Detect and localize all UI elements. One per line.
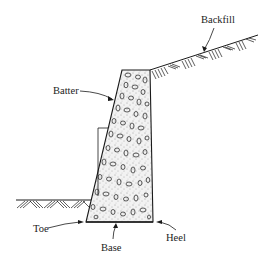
arrow-icon [202, 46, 207, 52]
front-ground [16, 200, 92, 208]
label-batter: Batter [53, 85, 79, 96]
arrow-icon [78, 220, 84, 224]
batter-leader [80, 91, 112, 99]
backfill-slope [150, 35, 258, 79]
arrow-icon [108, 96, 114, 101]
label-base: Base [101, 242, 122, 253]
label-toe: Toe [33, 223, 49, 234]
toe-leader [48, 222, 80, 228]
label-heel: Heel [166, 232, 186, 243]
retaining-wall-diagram: Backfill Batter Toe Base Heel [0, 0, 268, 270]
label-backfill: Backfill [201, 14, 235, 25]
backfill-leader [204, 28, 214, 50]
heel-leader [160, 222, 176, 230]
arrow-icon [113, 223, 118, 228]
arrow-icon [156, 220, 162, 224]
